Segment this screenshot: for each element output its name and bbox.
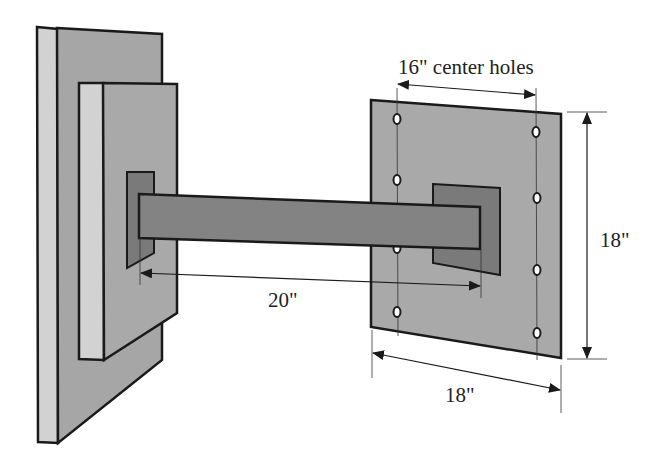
hole-spacing-label: 16" center holes <box>398 57 534 78</box>
hole-spacing-dimension <box>398 84 535 95</box>
plate-width-label: 18" <box>445 385 475 406</box>
bolt-hole-icon <box>534 193 541 203</box>
bolt-hole-icon <box>394 307 401 317</box>
bolt-hole-icon <box>534 265 541 275</box>
beam-length-label: 20" <box>268 290 298 311</box>
diagram-canvas: 16" center holes 18" 18" 20" <box>0 0 665 467</box>
beam-assembly-drawing <box>0 0 665 467</box>
bolt-hole-icon <box>394 114 401 124</box>
bolt-hole-icon <box>533 127 540 137</box>
plate-height-label: 18" <box>600 230 630 251</box>
bolt-hole-icon <box>534 328 541 338</box>
bolt-hole-icon <box>394 175 401 185</box>
